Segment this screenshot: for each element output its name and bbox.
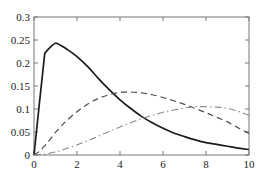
- x-tick-label: 10: [244, 158, 256, 170]
- y-tick-label: 0.2: [16, 57, 30, 69]
- x-tick-label: 4: [117, 158, 123, 170]
- y-tick-label: 0.05: [11, 126, 31, 138]
- y-tick-label: 0: [25, 149, 31, 161]
- x-tick-label: 2: [74, 158, 80, 170]
- y-tick-label: 0.1: [16, 103, 30, 115]
- x-tick-label: 0: [31, 158, 37, 170]
- plot-background: [34, 17, 249, 155]
- y-tick-label: 0.15: [11, 80, 31, 92]
- x-tick-labels-group: 0246810: [31, 158, 255, 170]
- y-tick-label: 0.3: [16, 11, 30, 23]
- x-tick-label: 6: [160, 158, 166, 170]
- line-chart: 0246810 00.050.10.150.20.250.3: [0, 0, 266, 181]
- y-tick-labels-group: 00.050.10.150.20.250.3: [11, 11, 31, 161]
- x-tick-label: 8: [203, 158, 209, 170]
- y-tick-label: 0.25: [11, 34, 31, 46]
- figure-container: 0246810 00.050.10.150.20.250.3: [0, 0, 266, 181]
